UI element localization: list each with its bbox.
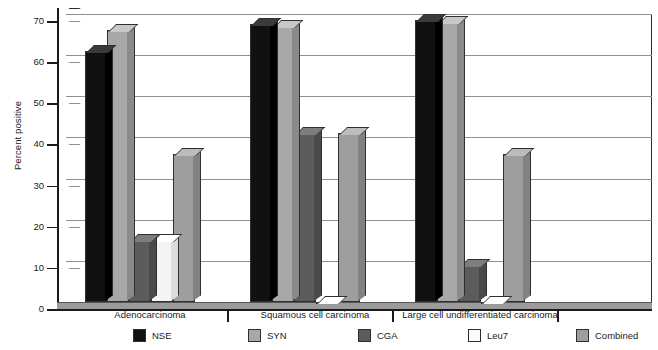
plot-frame-right (651, 14, 652, 302)
bar-combined-2[interactable] (338, 133, 360, 302)
bar-side-face (435, 15, 443, 301)
chart-figure: Percent positive 010203040506070 Adenoca… (0, 0, 658, 350)
y-tick-label: 40 (14, 138, 44, 149)
bar-side-face (270, 19, 278, 301)
legend-swatch-syn (248, 329, 261, 342)
bar-side-face (193, 149, 201, 301)
y-tick (47, 62, 57, 64)
y-tick-label: 50 (14, 97, 44, 108)
gridline-riser (57, 21, 81, 29)
gridline-riser (57, 103, 81, 111)
y-tick (47, 103, 57, 105)
legend-label: NSE (152, 330, 172, 341)
y-axis-line (57, 8, 59, 308)
y-tick (47, 144, 57, 146)
y-tick-label: 10 (14, 262, 44, 273)
y-tick-label: 20 (14, 221, 44, 232)
y-tick-label: 0 (14, 303, 44, 314)
legend-item-syn[interactable]: SYN (248, 329, 287, 342)
legend-label: Combined (595, 330, 638, 341)
legend-item-leu7[interactable]: Leu7 (468, 329, 508, 342)
gridline (66, 96, 652, 97)
bar-nse-3[interactable] (415, 20, 437, 302)
legend-swatch-cga (358, 329, 371, 342)
legend-item-cga[interactable]: CGA (358, 329, 398, 342)
bar-side-face (127, 26, 135, 301)
gridline-riser (57, 268, 81, 276)
gridline (66, 14, 652, 15)
bar-leu7-3[interactable] (481, 302, 503, 304)
legend-label: SYN (267, 330, 287, 341)
y-tick (47, 21, 57, 23)
legend-swatch-leu7 (468, 329, 481, 342)
bar-side-face (105, 46, 113, 301)
y-tick (47, 268, 57, 270)
bar-side-face (358, 129, 366, 301)
legend-label: CGA (377, 330, 398, 341)
legend-item-nse[interactable]: NSE (133, 329, 172, 342)
gridline-riser (57, 186, 81, 194)
gridline-riser (57, 227, 81, 235)
bar-nse-2[interactable] (250, 24, 272, 302)
y-tick (47, 186, 57, 188)
bar-side-face (292, 22, 300, 301)
legend-swatch-combined (576, 329, 589, 342)
category-separator (392, 310, 394, 322)
category-separator (227, 310, 229, 322)
plot-area: 010203040506070 (52, 8, 652, 308)
bar-nse-1[interactable] (85, 51, 107, 302)
gridline-riser (57, 144, 81, 152)
bar-side-face (171, 235, 179, 301)
category-label: Squamous cell carcinoma (261, 309, 370, 320)
chart-legend: NSESYNCGALeu7Combined (0, 329, 658, 350)
legend-label: Leu7 (487, 330, 508, 341)
category-label: Large cell undifferentiated carcinoma (402, 309, 558, 320)
gridline-riser (57, 62, 81, 70)
bar-combined-3[interactable] (503, 154, 525, 302)
y-tick-label: 30 (14, 180, 44, 191)
y-tick (47, 227, 57, 229)
bar-side-face (314, 129, 322, 301)
bar-leu7-2[interactable] (316, 302, 338, 304)
legend-swatch-nse (133, 329, 146, 342)
bar-side-face (523, 149, 531, 301)
y-tick-label: 70 (14, 15, 44, 26)
bar-side-face (457, 17, 465, 301)
bar-side-face (149, 235, 157, 301)
legend-item-combined[interactable]: Combined (576, 329, 638, 342)
gridline (66, 55, 652, 56)
y-tick-label: 60 (14, 56, 44, 67)
category-label: Adenocarcinoma (114, 309, 185, 320)
